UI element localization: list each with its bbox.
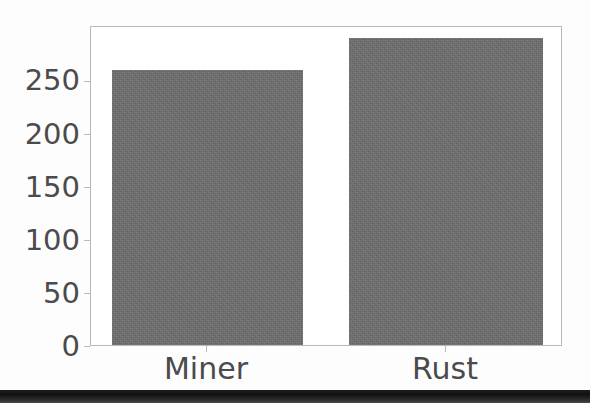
bar-chart-figure: 250 200 150 100 50 0 Miner Rust [0,0,590,403]
page-edge-band [0,390,590,403]
y-tick-label-200: 200 [0,120,80,149]
y-tick-label-100: 100 [0,226,80,255]
y-tick-label-250: 250 [0,66,80,95]
x-tick-label-rust: Rust [365,354,525,384]
x-tick-label-miner: Miner [126,354,286,384]
y-tick-label-150: 150 [0,173,80,202]
y-tick-mark-0 [84,346,90,347]
bar-miner[interactable] [112,70,303,345]
y-tick-label-50: 50 [0,279,80,308]
plot-area [90,26,562,346]
y-tick-label-0: 0 [0,332,80,361]
bar-rust[interactable] [349,38,543,345]
